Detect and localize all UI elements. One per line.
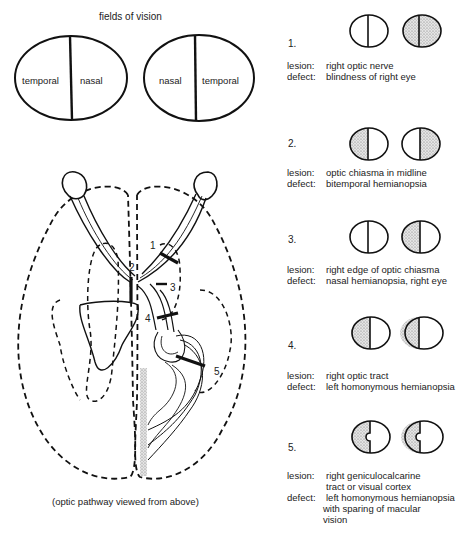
optic-pathway-diagram <box>18 172 245 479</box>
lesion-5-defect-cont-2: vision <box>323 514 347 525</box>
lesion-3-lesion: right edge of optic chiasma <box>326 264 440 275</box>
lesion-5-defect-cont-1: with sparing of macular <box>323 503 421 514</box>
lesion-2-defect-label: defect: <box>287 178 316 189</box>
pathway-marker-2: 2 <box>129 262 135 273</box>
lesion-5-number: 5. <box>288 442 296 453</box>
pathway-marker-5: 5 <box>214 366 220 377</box>
lesion-3-defect-label: defect: <box>287 275 316 286</box>
right-eye-nasal-label: nasal <box>159 75 182 86</box>
lesion-1-lesion-label: lesion: <box>287 60 314 71</box>
right-eye-temporal-label: temporal <box>202 75 239 86</box>
left-eye-temporal-label: temporal <box>22 75 59 86</box>
lesion-3-fields <box>350 221 440 253</box>
lesion-2-defect: bitemporal hemianopsia <box>326 178 427 189</box>
lesion-4-lesion: right optic tract <box>326 370 388 381</box>
pathway-caption: (optic pathway viewed from above) <box>52 496 199 507</box>
lesion-4-lesion-label: lesion: <box>287 370 314 381</box>
lesion-2-lesion-label: lesion: <box>287 167 314 178</box>
lesion-2-number: 2. <box>288 138 296 149</box>
lesion-5-defect-label: defect: <box>287 492 316 503</box>
lesion-5-fields <box>351 421 443 453</box>
lesion-1-lesion: right optic nerve <box>326 60 394 71</box>
lesion-5-defect: left homonymous hemianopsia <box>326 492 455 503</box>
lesion-4-number: 4. <box>288 340 296 351</box>
lesion-4-defect: left homonymous hemianopsia <box>326 381 455 392</box>
lesion-3-defect: nasal hemianopsia, right eye <box>326 275 447 286</box>
lesion-4-defect-label: defect: <box>287 381 316 392</box>
lesion-2-lesion: optic chiasma in midline <box>326 167 427 178</box>
lesion-5-lesion-label: lesion: <box>287 470 314 481</box>
lesion-1-defect-label: defect: <box>287 71 316 82</box>
lesion-5-lesion-cont: tract or visual cortex <box>326 481 411 492</box>
pathway-marker-4: 4 <box>145 313 151 324</box>
pathway-marker-1: 1 <box>150 240 156 251</box>
pathway-marker-3: 3 <box>170 282 176 293</box>
lesion-1-defect: blindness of right eye <box>326 71 416 82</box>
lesion-1-fields <box>350 15 441 47</box>
left-eye-nasal-label: nasal <box>80 75 103 86</box>
lesion-1-number: 1. <box>288 38 296 49</box>
lesion-4-fields <box>351 317 443 349</box>
fields-of-vision-title: fields of vision <box>99 11 162 22</box>
lesion-5-lesion: right geniculocalcarine <box>326 470 421 481</box>
lesion-3-number: 3. <box>288 234 296 245</box>
lesion-3-lesion-label: lesion: <box>287 264 314 275</box>
lesion-2-fields <box>349 128 440 160</box>
